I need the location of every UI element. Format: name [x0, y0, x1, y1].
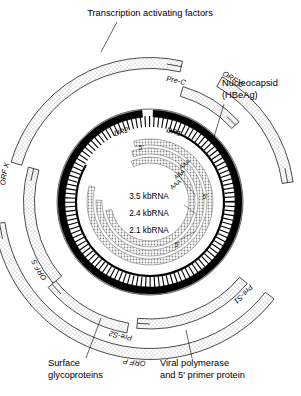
dna-base-pair [222, 178, 233, 181]
rna-arc-layer [87, 139, 213, 265]
dna-base-pair [69, 226, 79, 230]
dna-minus-strand [58, 110, 242, 294]
dna-base-pair [70, 170, 80, 174]
dna-base-pair [218, 165, 228, 170]
orf-band-orf-s [24, 167, 62, 283]
dna-base-pair [224, 214, 235, 216]
dna-base-pair [158, 277, 159, 288]
dna-base-pair [145, 116, 146, 127]
dna-base-pair [66, 218, 77, 220]
dna-base-pair [221, 226, 231, 230]
polya-aaa-3: AAA [168, 177, 183, 191]
dna-base-pair [141, 277, 142, 288]
dna-base-pair [64, 206, 75, 207]
callout-nucleocapsid-line2: (HBeAg) [222, 90, 258, 100]
dna-base-pair [216, 237, 226, 242]
rna-text-rna-label-2-1: 2.1 kbRNA [129, 226, 169, 235]
dna-base-pair [65, 210, 76, 211]
dna-base-pair [195, 262, 202, 271]
callout-nucleocapsid-line1: Nucleocapsid [222, 78, 278, 88]
dna-base-pair [106, 266, 112, 275]
dna-base-pair [114, 270, 119, 280]
dna-base-pair [185, 268, 190, 278]
dna-base-pair [64, 198, 75, 199]
dna-base-pair [216, 161, 226, 166]
dna-base-pair [174, 273, 178, 283]
dna-base-pair [68, 175, 78, 178]
dna-base-pair [223, 218, 234, 220]
dna-base-pair [212, 244, 221, 250]
dna-base-pair [132, 275, 134, 286]
dna-base-pair [222, 222, 233, 225]
dna-base-pair [182, 270, 187, 280]
dna-base-pair [76, 158, 85, 164]
dna-base-pair [185, 126, 190, 136]
dna-base-pair [219, 170, 229, 174]
orf-label-orf-x: ORF X [0, 161, 11, 186]
dna-base-pair [223, 183, 234, 185]
dna-base-pair [218, 233, 228, 238]
dna-base-pair [225, 197, 236, 198]
dna-base-pair [74, 237, 84, 242]
dna-base-pair [209, 150, 218, 157]
dna-base-pair [79, 154, 88, 160]
dna-base-pair [189, 266, 195, 275]
dna-base-pair [102, 264, 108, 273]
dna-base-pair [221, 174, 231, 178]
dna-base-pair [166, 275, 168, 286]
dna-base-pair [101, 131, 107, 140]
callout-viral-polymerase-line1: Viral polymerase [160, 358, 229, 368]
dna-base-pair [224, 188, 235, 190]
dna-base-pair [66, 184, 77, 186]
dna-base-pair [136, 276, 138, 287]
dna-base-pair [154, 277, 155, 288]
dna-base-pair [154, 116, 155, 127]
dna-base-pair [225, 206, 236, 207]
dna-base-pair [74, 162, 84, 167]
dna-base-pair [212, 153, 221, 159]
dna-base-pair [192, 264, 198, 273]
dna-base-pair [188, 128, 194, 137]
dna-base-pair [123, 273, 126, 283]
dna-base-pair [82, 248, 91, 255]
callout-surface-glycoproteins-line2: glycoproteins [48, 370, 103, 380]
dna-base-pair [105, 129, 111, 138]
callout-transcription-factors: Transcription activating factors [87, 8, 213, 18]
dna-base-pair [65, 214, 76, 216]
dna-base-pair [127, 274, 130, 285]
dna-base-pair [145, 277, 146, 288]
dna-base-pair [195, 133, 202, 142]
dna-base-pair [72, 166, 82, 171]
dna-base-pair [225, 192, 236, 193]
figure-canvas: ORF XORF CPre-CORF SPre-S2Pre-S1ORF PDR2… [0, 0, 301, 396]
dna-base-pair [140, 117, 141, 128]
dna-base-pair [65, 188, 76, 190]
dna-base-pair [162, 117, 164, 128]
dna-base-pair [178, 272, 182, 282]
dna-base-pair [70, 230, 80, 234]
callout-viral-polymerase-line2: and 5' primer protein [160, 370, 245, 380]
dna-base-pair [110, 268, 115, 278]
dna-base-pair [72, 234, 82, 239]
dna-base-pair [118, 272, 122, 282]
dna-base-pair [98, 262, 105, 271]
dna-base-pair [214, 157, 223, 163]
dna-base-pair [192, 131, 198, 140]
dna-base-pair [98, 134, 105, 143]
dna-base-pair [136, 117, 138, 128]
rna-text-rna-label-2-4: 2.4 kbRNA [129, 209, 169, 218]
dna-base-pair [158, 116, 159, 127]
dna-base-pair [162, 276, 164, 287]
dna-base-pair [214, 241, 223, 247]
dna-ring-layer [57, 109, 243, 295]
rna-text-rna-label-3-5: 3.5 kbRNA [129, 192, 169, 201]
dna-base-pair [220, 230, 230, 234]
dna-base-pair [76, 241, 85, 247]
dna-base-pair [170, 274, 173, 285]
callout-surface-glycoproteins-line1: Surface [48, 358, 80, 368]
leader-transcription-factors [101, 22, 117, 52]
dna-base-pair [79, 244, 88, 250]
dna-base-pair [210, 247, 219, 254]
orf-label-pre-c: Pre-C [166, 74, 188, 87]
hbv-genome-diagram: ORF XORF CPre-CORF SPre-S2Pre-S1ORF PDR2… [0, 0, 301, 396]
